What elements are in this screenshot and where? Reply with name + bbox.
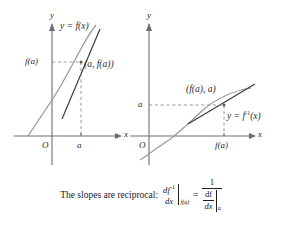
x-axis-arrowhead [249,133,256,139]
caption-rhs: 1 df dx a [202,178,222,212]
caption-equals-sign: = [193,189,199,200]
right-curve-equation-tail: (x) [250,111,261,121]
caption-rhs-evaluation-bar [216,190,217,212]
graph-of-f-inverse-panel: y x O f(a) a (f(a), a) y = f-1(x) [125,0,282,175]
caption-rhs-numerator: 1 [208,178,216,187]
caption-rhs-inner-denominator: dx [204,202,214,211]
caption-rhs-inner-numerator: df [203,190,214,199]
right-y-tick-label-a: a [138,100,143,109]
curve-f [28,25,96,136]
caption-rhs-denominator: df dx a [202,190,222,212]
caption-lhs-fraction: df-1 dx [161,184,177,205]
right-point-label: (f(a), a) [186,85,216,95]
caption-lhs-evaluated-at: f(a) [180,198,189,206]
curve-f-inverse [140,88,251,160]
x-axis-arrowhead [115,133,122,139]
caption-lhs-numerator-exponent: -1 [170,183,175,190]
left-origin-label: O [42,141,49,150]
tangency-point-f-inverse [223,104,226,107]
caption-rhs-evaluated-at: a [218,205,221,212]
y-axis-arrowhead [146,23,152,31]
caption: The slopes are reciprocal: df-1 dx f(a) … [0,178,282,226]
caption-rhs-inner-fraction: df dx [203,190,214,212]
caption-lhs-numerator-text: df [163,185,170,195]
right-origin-label: O [139,141,146,150]
caption-lhs-numerator: df-1 [161,184,177,195]
caption-lhs-evaluation-bar [178,184,179,205]
caption-lhs: df-1 dx f(a) [161,184,189,205]
left-y-tick-label-fa: f(a) [25,57,38,66]
tangency-point-f [80,61,83,64]
right-curve-equation-head: y = f [227,111,245,121]
right-curve-equation-label: y = f-1(x) [227,110,261,122]
left-y-axis-label: y [50,11,54,20]
left-curve-equation-label: y = f(x) [60,22,89,32]
graph-of-f-panel: y x O a f(a) y = f(x) (a, f(a)) [0,0,141,175]
left-x-tick-label-a: a [77,141,82,150]
right-y-axis-label: y [147,11,151,20]
caption-lhs-denominator: dx [163,197,175,206]
right-x-axis-label: x [258,130,262,139]
figure-root: y x O a f(a) y = f(x) (a, f(a)) [0,0,282,226]
caption-text: The slopes are reciprocal: [60,190,158,200]
caption-inner: The slopes are reciprocal: df-1 dx f(a) … [60,178,222,212]
y-axis-arrowhead [49,23,55,31]
right-x-tick-label-fa: f(a) [215,141,228,150]
left-point-label: (a, f(a)) [84,60,114,70]
